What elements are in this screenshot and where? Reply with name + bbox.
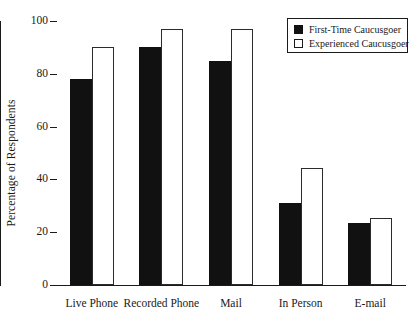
bar[interactable] — [279, 203, 301, 285]
y-axis-tick — [50, 285, 57, 286]
bar[interactable] — [161, 29, 183, 285]
legend-label-first-time: First-Time Caucusgoer — [309, 25, 401, 35]
y-axis-title: Percentage of Respondents — [0, 0, 22, 326]
bar-chart: Percentage of Respondents 020406080100 L… — [0, 0, 417, 326]
bar[interactable] — [92, 47, 114, 285]
bar-group — [70, 21, 114, 285]
y-axis-line — [0, 21, 1, 286]
x-axis-line — [57, 285, 406, 286]
bar[interactable] — [209, 61, 231, 285]
x-axis-label: Mail — [220, 297, 242, 309]
bar-group — [209, 21, 253, 285]
legend-item-first-time[interactable]: First-Time Caucusgoer — [294, 23, 402, 36]
x-axis-label: Live Phone — [65, 297, 118, 309]
y-axis-tick — [50, 232, 57, 233]
legend: First-Time Caucusgoer Experienced Caucus… — [287, 18, 408, 53]
bar[interactable] — [348, 223, 370, 285]
legend-item-experienced[interactable]: Experienced Caucusgoer — [294, 37, 402, 50]
bar[interactable] — [301, 168, 323, 285]
bar-group — [279, 21, 323, 285]
y-axis-tick-label: 20 — [8, 226, 48, 238]
y-axis-tick-label: 80 — [8, 68, 48, 80]
y-axis-tick-label: 60 — [8, 121, 48, 133]
legend-label-experienced: Experienced Caucusgoer — [309, 39, 409, 49]
bar-group — [139, 21, 183, 285]
y-axis-tick — [50, 21, 57, 22]
bar[interactable] — [231, 29, 253, 285]
x-axis-label: In Person — [279, 297, 323, 309]
bar[interactable] — [370, 218, 392, 285]
legend-swatch-hollow-icon — [294, 39, 303, 48]
bar[interactable] — [139, 47, 161, 285]
plot-area — [57, 21, 405, 285]
y-axis-tick-label: 100 — [8, 15, 48, 27]
y-axis-tick — [50, 127, 57, 128]
bar[interactable] — [70, 79, 92, 285]
y-axis-tick — [50, 179, 57, 180]
y-axis-tick-label: 0 — [8, 279, 48, 291]
bar-group — [348, 21, 392, 285]
x-axis-label: Recorded Phone — [124, 297, 200, 309]
x-axis-label: E-mail — [355, 297, 386, 309]
legend-swatch-filled-icon — [294, 25, 303, 34]
y-axis-tick — [50, 74, 57, 75]
y-axis-tick-label: 40 — [8, 174, 48, 186]
